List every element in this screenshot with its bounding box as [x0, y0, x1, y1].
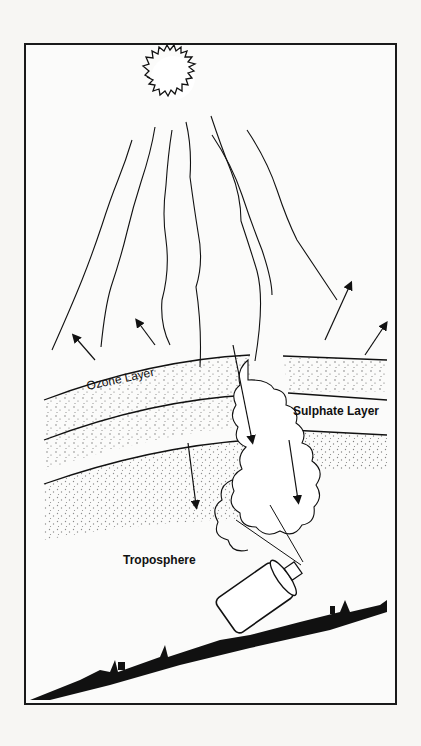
- sulphate-layer-label: Sulphate Layer: [293, 404, 379, 418]
- solar-rays: [52, 116, 337, 367]
- aerosol-spray-can: [214, 550, 310, 635]
- sun-icon: [143, 45, 195, 100]
- atmosphere-illustration: [0, 0, 421, 746]
- city-skyline-ground: [30, 600, 387, 700]
- troposphere-label: Troposphere: [123, 553, 196, 567]
- reflected-arrows: [75, 285, 385, 360]
